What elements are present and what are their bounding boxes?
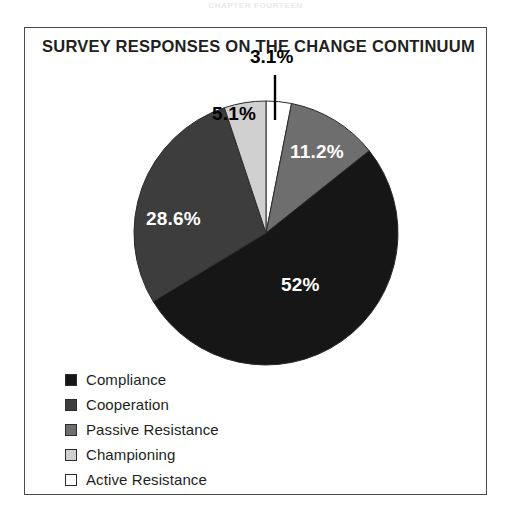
legend-label-championing: Championing [86,446,176,463]
legend-swatch-cooperation [65,399,77,411]
legend-item-cooperation: Cooperation [65,392,325,417]
slice-label-passive-resistance: 28.6% [146,208,201,230]
running-head: CHAPTER FOURTEEN [0,1,511,10]
slice-label-championing: 5.1% [212,103,256,125]
legend-label-passive-resistance: Passive Resistance [86,421,219,438]
slice-label-cooperation: 11.2% [290,141,344,163]
legend-label-active-resistance: Active Resistance [86,471,207,488]
legend-item-compliance: Compliance [65,367,325,392]
legend-label-cooperation: Cooperation [86,396,169,413]
pie-slices [134,101,398,365]
slice-label-active-resistance: 3.1% [250,46,293,68]
legend-swatch-compliance [65,374,77,386]
legend-label-compliance: Compliance [86,371,166,388]
legend-item-active-resistance: Active Resistance [65,467,325,492]
legend-swatch-championing [65,449,77,461]
legend: Compliance Cooperation Passive Resistanc… [65,367,325,492]
legend-item-passive-resistance: Passive Resistance [65,417,325,442]
slice-label-compliance: 52% [281,274,320,296]
legend-swatch-passive-resistance [65,424,77,436]
legend-item-championing: Championing [65,442,325,467]
legend-swatch-active-resistance [65,474,77,486]
figure-frame: SURVEY RESPONSES ON THE CHANGE CONTINUUM… [24,27,487,495]
